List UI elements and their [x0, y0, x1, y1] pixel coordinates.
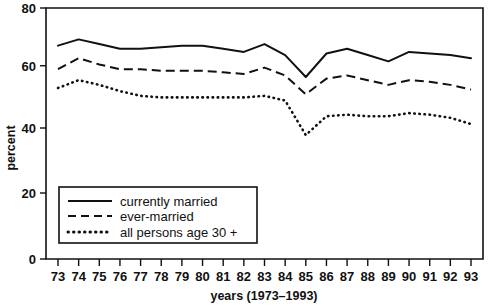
y-axis-ticks: [40, 8, 46, 259]
y-axis-tick-labels: 80 60 40 20 0: [22, 1, 36, 267]
series-currently-married: [58, 39, 471, 77]
x-tick-label-83: 83: [257, 269, 271, 284]
x-tick-label-76: 76: [113, 269, 127, 284]
x-tick-label-73: 73: [51, 269, 65, 284]
series-all-persons-age-30-: [58, 80, 471, 135]
x-tick-label-77: 77: [133, 269, 147, 284]
x-tick-label-79: 79: [175, 269, 189, 284]
y-tick-label-20: 20: [22, 186, 36, 201]
x-tick-label-89: 89: [381, 269, 395, 284]
x-tick-label-92: 92: [443, 269, 457, 284]
y-tick-label-80: 80: [22, 1, 36, 16]
x-axis-title: years (1973–1993): [210, 289, 317, 303]
legend-label-all-persons: all persons age 30 +: [120, 225, 237, 240]
y-tick-label-60: 60: [22, 59, 36, 74]
x-tick-label-87: 87: [340, 269, 354, 284]
x-tick-label-90: 90: [402, 269, 416, 284]
x-tick-label-84: 84: [278, 269, 293, 284]
data-series-group: [58, 39, 471, 135]
y-tick-label-40: 40: [22, 121, 36, 136]
x-tick-label-91: 91: [422, 269, 436, 284]
x-tick-label-81: 81: [216, 269, 230, 284]
x-tick-label-75: 75: [92, 269, 106, 284]
x-tick-label-82: 82: [237, 269, 251, 284]
legend-label-ever-married: ever-married: [120, 209, 194, 224]
x-tick-label-85: 85: [299, 269, 313, 284]
legend-label-currently-married: currently married: [120, 194, 218, 209]
x-tick-label-86: 86: [319, 269, 333, 284]
x-tick-label-93: 93: [464, 269, 478, 284]
line-chart: 80 60 40 20 0 percent 737475767778798081…: [0, 0, 495, 308]
series-ever-married: [58, 58, 471, 94]
chart-figure: 80 60 40 20 0 percent 737475767778798081…: [0, 0, 495, 308]
y-tick-label-0: 0: [29, 252, 36, 267]
y-axis-title: percent: [4, 125, 18, 171]
x-axis-tick-labels: 7374757677787980818283848586878889909192…: [51, 269, 478, 284]
x-axis-ticks: [58, 259, 471, 266]
x-tick-label-80: 80: [195, 269, 209, 284]
x-tick-label-78: 78: [154, 269, 168, 284]
x-tick-label-88: 88: [361, 269, 375, 284]
x-tick-label-74: 74: [71, 269, 86, 284]
legend: currently married ever-married all perso…: [59, 187, 257, 243]
